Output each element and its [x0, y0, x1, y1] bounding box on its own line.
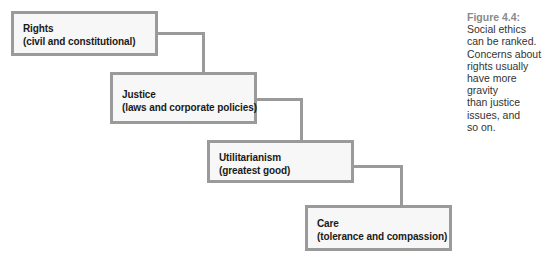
figure-label: Figure 4.4:: [467, 11, 547, 23]
figure-caption: Figure 4.4: Social ethics can be ranked.…: [467, 11, 547, 133]
box-justice-subtitle: (laws and corporate policies): [122, 101, 254, 114]
box-care-subtitle: (tolerance and compassion): [317, 230, 449, 243]
connector-justice-utilitarianism-v: [300, 98, 303, 141]
box-care: Care (tolerance and compassion): [305, 205, 452, 251]
box-justice: Justice (laws and corporate policies): [110, 72, 257, 124]
box-rights-subtitle: (civil and constitutional): [23, 35, 155, 48]
connector-utilitarianism-care-h: [354, 165, 403, 168]
caption-line: issues, and: [467, 109, 547, 121]
caption-line: can be ranked.: [467, 35, 547, 47]
connector-justice-utilitarianism-h: [257, 98, 303, 101]
caption-line: Social ethics: [467, 23, 547, 35]
caption-line: so on.: [467, 121, 547, 133]
connector-utilitarianism-care-v: [400, 165, 403, 206]
connector-rights-justice-v: [202, 32, 205, 73]
box-utilitarianism: Utilitarianism (greatest good): [207, 140, 354, 183]
connector-rights-justice-h: [158, 32, 205, 35]
caption-line: than justice: [467, 96, 547, 108]
caption-line: Concerns about: [467, 48, 547, 60]
box-rights: Rights (civil and constitutional): [11, 11, 158, 56]
box-justice-title: Justice: [122, 88, 254, 101]
caption-line: rights usually: [467, 60, 547, 72]
box-utilitarianism-subtitle: (greatest good): [219, 164, 351, 177]
box-care-title: Care: [317, 217, 449, 230]
box-rights-title: Rights: [23, 22, 155, 35]
caption-line: have more gravity: [467, 72, 547, 96]
box-utilitarianism-title: Utilitarianism: [219, 151, 351, 164]
